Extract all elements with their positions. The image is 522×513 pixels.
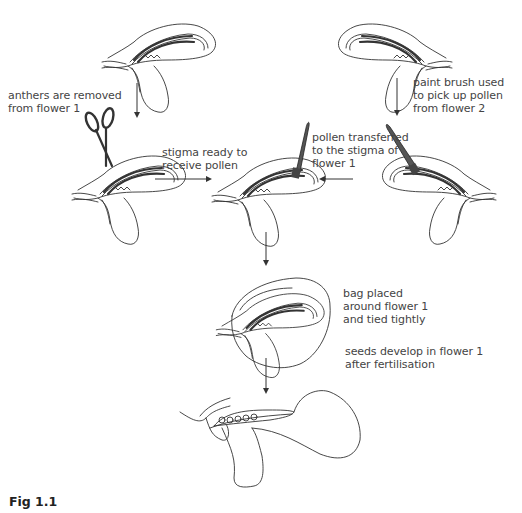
flower1-seeds-icon [180,391,360,487]
stigma-ready-label: stigma ready to receive pollen [162,146,247,172]
pollen-transferred-label: pollen transferred to the stigma of flow… [312,131,409,170]
scissors-icon [83,107,115,166]
seeds-develop-label: seeds develop in flower 1 after fertilis… [345,345,483,371]
arrow-down-icon [394,78,400,116]
arrow-down-icon [263,232,269,266]
arrow-right-icon [155,176,212,182]
bag-icon [232,278,331,368]
flower1-bagged-icon [216,294,324,378]
anthers-removed-label: anthers are removed from flower 1 [8,89,122,115]
bag-placed-label: bag placed around flower 1 and tied tigh… [343,287,428,326]
paint-brush-icon [291,122,309,178]
arrow-down-icon [263,358,269,394]
arrow-left-icon [319,176,353,182]
paint-brush-label: paint brush used to pick up pollen from … [413,76,504,115]
figure-caption: Fig 1.1 [9,494,57,509]
